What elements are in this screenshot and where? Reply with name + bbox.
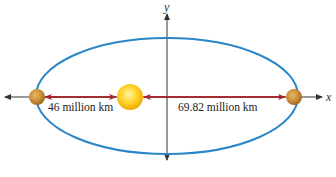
orbit-diagram: y x 46 million km 69.82 million km: [0, 0, 336, 177]
planet-aphelion-icon: [286, 89, 302, 105]
y-axis-label: y: [163, 0, 170, 14]
aphelion-distance-label: 69.82 million km: [178, 101, 258, 113]
x-axis-label: x: [325, 90, 332, 104]
sun-icon: [117, 84, 143, 110]
perihelion-distance-label: 46 million km: [48, 101, 113, 113]
planet-perihelion-icon: [29, 89, 45, 105]
